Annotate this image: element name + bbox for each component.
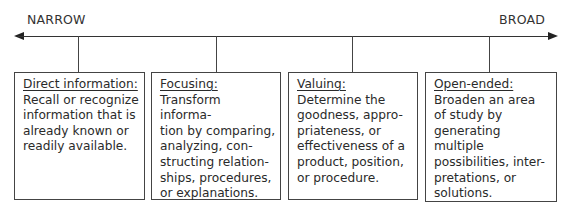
box-title: Valuing: xyxy=(297,77,412,93)
box-direct-information: Direct information: Recall or recognize … xyxy=(14,72,145,200)
box-description: Transform informa- tion by comparing, an… xyxy=(160,93,275,202)
box-valuing: Valuing: Determine the goodness, appro- … xyxy=(288,72,418,200)
arrow-right-icon xyxy=(548,32,558,40)
box-focusing: Focusing: Transform informa- tion by com… xyxy=(151,72,281,200)
continuum-axis xyxy=(18,36,554,37)
box-description: Broaden an area of study by generating m… xyxy=(434,93,551,202)
box-title: Direct information: xyxy=(23,77,139,93)
box-title: Open-ended: xyxy=(434,77,551,93)
box-description: Determine the goodness, appro- priatenes… xyxy=(297,93,412,187)
broad-label: BROAD xyxy=(499,12,545,27)
connector-line xyxy=(216,36,217,72)
box-description: Recall or recognize information that is … xyxy=(23,93,139,155)
box-open-ended: Open-ended: Broaden an area of study by … xyxy=(425,72,557,202)
box-title: Focusing: xyxy=(160,77,275,93)
connector-line xyxy=(78,36,79,72)
connector-line xyxy=(489,36,490,72)
narrow-label: NARROW xyxy=(27,12,86,27)
connector-line xyxy=(352,36,353,72)
